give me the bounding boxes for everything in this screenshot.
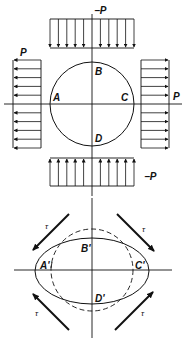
top-figure: −P −P P P A B C D: [4, 5, 182, 196]
label-point-b-prime: B': [81, 243, 91, 254]
label-point-d: D: [95, 133, 102, 144]
dash-mark-left: [51, 262, 52, 268]
label-point-b: B: [95, 66, 102, 77]
label-right-load: P: [173, 91, 180, 102]
label-point-a-prime: A': [39, 260, 50, 271]
label-tau-upper-right: τ: [142, 225, 146, 234]
shear-arrow-lower-right: [115, 292, 153, 330]
label-tau-lower-right: τ: [141, 309, 145, 318]
label-bottom-load: −P: [144, 171, 157, 182]
bottom-figure: τ τ τ τ A' B' C' D': [14, 198, 172, 338]
label-top-load: −P: [94, 5, 107, 16]
diagram-canvas: −P −P P P A B C D τ τ τ τ A' B' C' D: [0, 0, 184, 338]
label-point-d-prime: D': [95, 293, 105, 304]
shear-arrow-upper-right: [117, 214, 154, 251]
label-left-load: P: [20, 47, 27, 58]
label-tau-upper-left: τ: [45, 222, 49, 231]
label-point-a: A: [52, 92, 60, 103]
label-point-c: C: [121, 92, 129, 103]
label-point-c-prime: C': [135, 260, 145, 271]
shear-arrows: [33, 214, 154, 330]
shear-arrow-upper-left: [33, 214, 69, 250]
label-tau-lower-left: τ: [35, 309, 39, 318]
